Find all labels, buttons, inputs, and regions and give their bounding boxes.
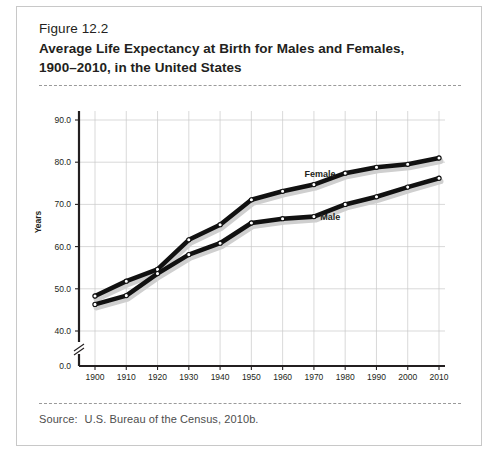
svg-text:80.0: 80.0 <box>54 157 71 167</box>
svg-text:2000: 2000 <box>398 372 417 382</box>
svg-text:90.0: 90.0 <box>54 115 71 125</box>
gridlines <box>79 111 445 366</box>
series-label-female: Female <box>305 169 336 179</box>
svg-text:1970: 1970 <box>304 372 323 382</box>
data-point <box>187 253 191 257</box>
svg-text:1920: 1920 <box>148 372 167 382</box>
data-point <box>374 195 378 199</box>
svg-text:1980: 1980 <box>336 372 355 382</box>
data-point <box>93 294 97 298</box>
series-female <box>93 156 441 299</box>
data-point <box>124 279 128 283</box>
svg-text:1900: 1900 <box>86 372 105 382</box>
svg-text:1960: 1960 <box>273 372 292 382</box>
data-point <box>281 189 285 193</box>
data-point <box>187 238 191 242</box>
data-point <box>437 156 441 160</box>
data-series <box>93 156 441 308</box>
series-labels: FemaleMale <box>305 169 341 221</box>
data-point <box>437 176 441 180</box>
source-text: U.S. Bureau of the Census, 2010b. <box>85 413 259 425</box>
svg-text:70.0: 70.0 <box>54 199 71 209</box>
data-point <box>249 221 253 225</box>
data-point <box>281 217 285 221</box>
y-axis-ticks: 0.040.050.060.070.080.090.0 <box>54 115 79 371</box>
y-axis-title: Years <box>33 210 43 233</box>
series-label-male: Male <box>320 212 340 222</box>
divider-bottom <box>39 403 461 404</box>
data-point <box>93 302 97 306</box>
svg-text:0.0: 0.0 <box>59 361 71 371</box>
svg-text:50.0: 50.0 <box>54 284 71 294</box>
line-chart: 0.040.050.060.070.080.090.0 190019101920… <box>17 7 483 447</box>
x-axis-ticks: 1900191019201930194019501960197019801990… <box>86 366 449 382</box>
svg-text:40.0: 40.0 <box>54 326 71 336</box>
data-point <box>343 202 347 206</box>
data-point <box>124 294 128 298</box>
data-point <box>406 185 410 189</box>
data-point <box>155 272 159 276</box>
axis-lines <box>74 111 445 366</box>
svg-text:60.0: 60.0 <box>54 242 71 252</box>
svg-text:1940: 1940 <box>211 372 230 382</box>
data-point <box>218 223 222 227</box>
figure-panel: Figure 12.2 Average Life Expectancy at B… <box>16 6 482 446</box>
svg-text:1990: 1990 <box>367 372 386 382</box>
data-point <box>312 183 316 187</box>
data-point <box>406 162 410 166</box>
data-point <box>374 165 378 169</box>
chart-svg: 0.040.050.060.070.080.090.0 190019101920… <box>17 7 483 447</box>
data-point <box>218 241 222 245</box>
data-point <box>343 171 347 175</box>
svg-text:1910: 1910 <box>117 372 136 382</box>
svg-text:2010: 2010 <box>430 372 449 382</box>
svg-text:1930: 1930 <box>179 372 198 382</box>
source-label: Source: <box>39 413 78 425</box>
source-note: Source:U.S. Bureau of the Census, 2010b. <box>39 413 259 425</box>
data-point <box>249 198 253 202</box>
data-point <box>312 215 316 219</box>
svg-text:1950: 1950 <box>242 372 261 382</box>
